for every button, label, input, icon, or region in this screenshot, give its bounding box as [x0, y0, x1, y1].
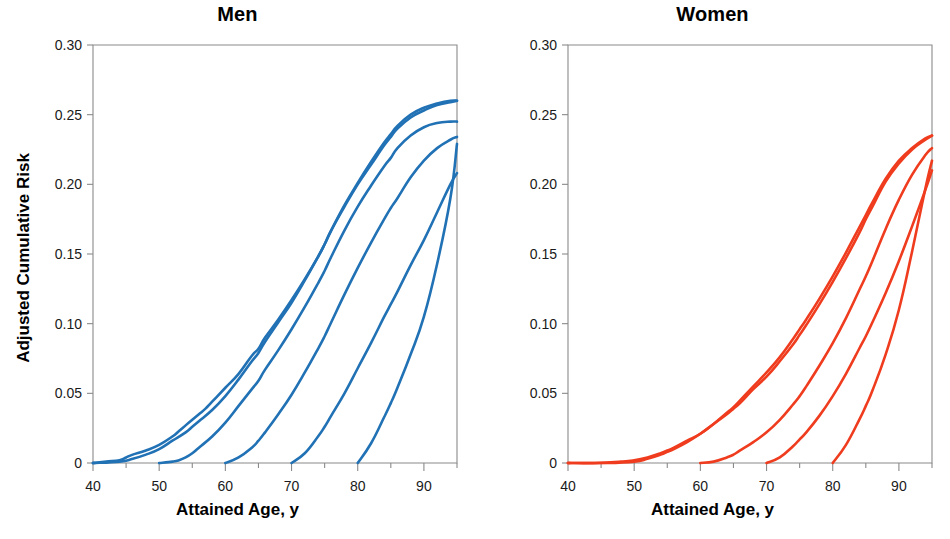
y-tick-label: 0.25 [55, 107, 82, 123]
risk-curve [568, 136, 932, 464]
x-tick-label: 90 [891, 478, 907, 494]
risk-curve [767, 170, 932, 463]
plot-frame [93, 45, 457, 463]
x-tick-label: 90 [416, 478, 432, 494]
risk-curve [292, 173, 457, 463]
plot-men: 00.050.100.150.200.250.30405060708090 [0, 0, 475, 539]
y-tick-label: 0.15 [530, 246, 557, 262]
y-axis-label-men: Adjusted Cumulative Risk [14, 48, 34, 468]
x-tick-label: 50 [626, 478, 642, 494]
x-tick-label: 60 [693, 478, 709, 494]
y-tick-label: 0.15 [55, 246, 82, 262]
x-axis-label-women: Attained Age, y [475, 500, 950, 520]
x-tick-label: 80 [350, 478, 366, 494]
y-tick-label: 0.30 [530, 37, 557, 53]
panel-women: Women 00.050.100.150.200.250.30405060708… [475, 0, 950, 539]
x-tick-label: 70 [759, 478, 775, 494]
y-tick-label: 0 [74, 455, 82, 471]
risk-curve [568, 136, 932, 464]
y-tick-label: 0.10 [55, 316, 82, 332]
x-tick-label: 70 [284, 478, 300, 494]
x-tick-label: 80 [825, 478, 841, 494]
y-tick-label: 0.25 [530, 107, 557, 123]
x-tick-label: 40 [85, 478, 101, 494]
figure-root: Men 00.050.100.150.200.250.3040506070809… [0, 0, 950, 539]
panel-men: Men 00.050.100.150.200.250.3040506070809… [0, 0, 475, 539]
y-tick-label: 0.20 [55, 176, 82, 192]
risk-curve [225, 137, 457, 463]
x-tick-label: 60 [218, 478, 234, 494]
y-tick-label: 0.10 [530, 316, 557, 332]
y-tick-label: 0 [549, 455, 557, 471]
x-tick-label: 50 [151, 478, 167, 494]
y-tick-label: 0.05 [55, 385, 82, 401]
risk-curve [358, 144, 457, 463]
x-axis-label-men: Attained Age, y [0, 500, 475, 520]
x-tick-label: 40 [560, 478, 576, 494]
y-tick-label: 0.05 [530, 385, 557, 401]
y-tick-label: 0.30 [55, 37, 82, 53]
plot-frame [568, 45, 932, 463]
plot-women: 00.050.100.150.200.250.30405060708090 [475, 0, 950, 539]
y-tick-label: 0.20 [530, 176, 557, 192]
